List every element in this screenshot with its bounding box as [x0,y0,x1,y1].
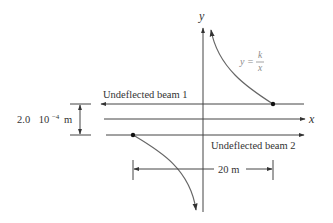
equation-lhs: y = [239,56,254,67]
horizontal-distance-label: 20 m [218,164,239,175]
lower-curve-branch [131,133,196,210]
x-axis: x [104,112,315,126]
separation-dimension: 2.0 10 −4 m [17,104,91,135]
upper-curve-branch [211,30,275,106]
separation-label: 2.0 10 −4 m [17,110,72,125]
y-axis-label: y [198,9,205,23]
separation-value: 2.0 [17,114,30,125]
separation-unit: m [64,114,72,125]
equation-numerator: k [258,50,263,60]
undeflected-beam-2: Undeflected beam 2 [106,135,304,151]
upper-deflection-point [271,102,275,106]
y-axis: y [198,9,205,212]
curve-equation-label: y = k x [239,50,264,73]
separation-base: 10 [39,114,50,125]
separation-exponent: −4 [52,113,60,121]
equation-denominator: x [257,63,263,73]
lower-deflection-point [131,133,135,137]
x-axis-label: x [308,112,315,126]
beam-2-label: Undeflected beam 2 [211,140,296,151]
beam-1-label: Undeflected beam 1 [103,89,188,100]
deflection-diagram: y x Undeflected beam 1 Undeflected beam … [0,0,333,223]
